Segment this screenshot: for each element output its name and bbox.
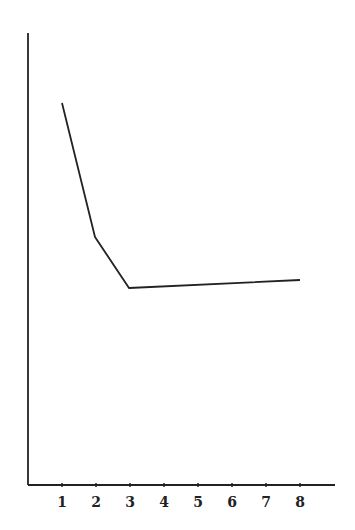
x-tick-label: 7 — [261, 494, 271, 510]
x-tick-label: 1 — [57, 494, 67, 510]
x-tick-labels: 12345678 — [57, 494, 305, 510]
x-tick-label: 8 — [295, 494, 305, 510]
x-tick-label: 6 — [227, 494, 237, 510]
x-tick-label: 4 — [159, 494, 169, 510]
x-tick-label: 5 — [193, 494, 203, 510]
x-tick-label: 3 — [125, 494, 135, 510]
x-tick-label: 2 — [91, 494, 101, 510]
line-chart: 12345678 — [0, 0, 355, 530]
data-line — [62, 103, 300, 288]
